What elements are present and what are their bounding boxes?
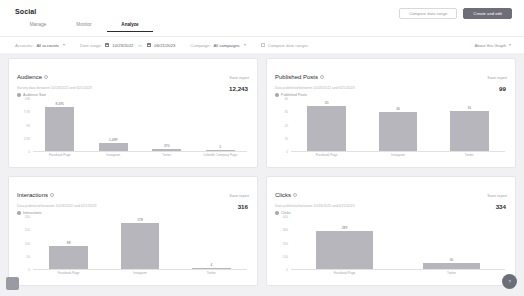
bar-value-label: 178 — [137, 218, 143, 222]
info-icon[interactable] — [44, 75, 48, 79]
bar-column[interactable]: 178 — [104, 217, 175, 269]
y-axis-tick: 0 — [286, 268, 288, 272]
bar[interactable] — [307, 106, 346, 152]
x-axis-label: Facebook Page — [291, 270, 398, 279]
compare-date-ranges-checkbox[interactable]: Compare date ranges — [261, 43, 309, 48]
about-this-graph-link[interactable]: About this Graph — [475, 43, 511, 48]
y-axis-tick: 30 — [285, 110, 288, 114]
bar-value-label: 289 — [342, 226, 348, 230]
bar-column[interactable]: 1 — [194, 99, 248, 151]
accounts-filter[interactable]: Accounts: All accounts — [15, 43, 65, 48]
chart-legend: Interactions — [17, 211, 249, 215]
panel-total-value: 99 — [499, 85, 506, 92]
x-axis-label: Facebook Page — [33, 152, 87, 161]
x-axis-label: Twitter — [434, 152, 505, 161]
bar-column[interactable]: 1,489 — [87, 99, 141, 151]
y-axis-tick: 0 — [28, 150, 30, 154]
bar-column[interactable]: 370 — [140, 99, 194, 151]
calendar-icon — [105, 43, 110, 48]
save-report-link[interactable]: Save report — [229, 76, 249, 80]
panel-title: Published Posts — [275, 74, 318, 80]
info-icon[interactable] — [320, 75, 324, 79]
info-icon[interactable] — [50, 193, 54, 197]
panel-title-wrap: Audience — [17, 65, 48, 83]
chart-legend: Published Posts — [275, 93, 507, 97]
y-axis-tick: 200 — [25, 215, 30, 219]
x-axis-labels: Facebook PageInstagramTwitter — [291, 152, 505, 161]
bar[interactable] — [121, 223, 160, 269]
accounts-filter-value: All accounts — [36, 43, 59, 48]
panel-header: Interactions Save report — [17, 183, 249, 201]
chevron-down-icon-about — [509, 44, 511, 46]
x-axis-label: LinkedIn Company Page — [194, 152, 248, 161]
y-axis: 0100200300400 — [275, 217, 290, 270]
x-axis-labels: Facebook PageInstagramTwitter — [33, 270, 247, 279]
campaign-filter-value: All campaigns — [214, 43, 240, 48]
y-axis-tick: 150 — [25, 228, 30, 232]
bar-series: 353031 — [291, 99, 505, 151]
x-axis-label: Instagram — [362, 152, 433, 161]
bar[interactable] — [450, 111, 489, 151]
save-report-link[interactable]: Save report — [229, 194, 249, 198]
y-axis-tick: 7.5K — [24, 110, 30, 114]
bar-column[interactable]: 31 — [434, 99, 505, 151]
bar-value-label: 370 — [164, 144, 170, 148]
chart-published-posts: 010203040 353031 Facebook PageInstagramT… — [275, 99, 507, 161]
help-icon: ? — [508, 279, 510, 284]
info-icon[interactable] — [293, 193, 297, 197]
bar[interactable] — [316, 231, 374, 269]
chevron-down-icon-campaign — [244, 44, 246, 46]
chart-legend: Clicks — [275, 211, 507, 215]
bar-column[interactable]: 88 — [33, 217, 104, 269]
panel-total-value: 334 — [496, 203, 506, 210]
bar[interactable] — [45, 107, 74, 151]
save-report-link[interactable]: Save report — [487, 76, 507, 80]
checkbox-icon[interactable] — [261, 43, 265, 47]
bar[interactable] — [152, 149, 181, 151]
bottom-left-badge[interactable] — [6, 277, 19, 290]
bar-column[interactable]: 35 — [291, 99, 362, 151]
date-to-value: 06/21/2023 — [154, 43, 175, 48]
x-axis-label: Instagram — [104, 270, 175, 279]
date-range-filter[interactable]: Date range: 10/23/2022 to 06/21/2023 — [80, 43, 175, 48]
y-axis: 050100150200 — [17, 217, 32, 270]
compare-date-range-button[interactable]: Compare date range — [399, 8, 457, 19]
bar-column[interactable]: 4 — [176, 217, 247, 269]
bar[interactable] — [99, 143, 128, 151]
bar[interactable] — [379, 112, 418, 151]
y-axis-tick: 0 — [286, 150, 288, 154]
panel-interactions: Interactions Save report Data published … — [8, 176, 258, 286]
panel-header: Clicks Save report — [275, 183, 507, 201]
bar-column[interactable]: 289 — [291, 217, 398, 269]
date-range-separator: to — [138, 43, 142, 48]
bar-value-label: 35 — [325, 101, 329, 105]
bar-column[interactable]: 8,495 — [33, 99, 87, 151]
campaign-filter-label: Campaign: — [190, 43, 210, 48]
x-axis-labels: Facebook PageInstagramTwitterLinkedIn Co… — [33, 152, 247, 161]
bar[interactable] — [49, 246, 88, 269]
bar-value-label: 1 — [219, 145, 221, 149]
panel-subtitle: Data published between 10/23/2022 and 6/… — [275, 86, 507, 90]
help-fab-button[interactable]: ? — [502, 274, 517, 289]
compare-date-ranges-label: Compare date ranges — [268, 43, 309, 48]
tab-manage[interactable]: Manage — [15, 22, 61, 32]
create-and-edit-button[interactable]: Create and edit — [463, 8, 512, 19]
plot-area: 881784 — [33, 217, 247, 270]
legend-swatch-icon — [275, 211, 279, 215]
bar-column[interactable]: 30 — [362, 99, 433, 151]
bar-column[interactable]: 45 — [398, 217, 505, 269]
campaign-filter[interactable]: Campaign: All campaigns — [190, 43, 245, 48]
save-report-link[interactable]: Save report — [487, 194, 507, 198]
bar[interactable] — [423, 263, 481, 269]
bar-value-label: 88 — [67, 241, 71, 245]
tab-analyze[interactable]: Analyze — [107, 22, 153, 32]
bar[interactable] — [206, 150, 235, 151]
bar[interactable] — [192, 268, 231, 269]
analytics-dashboard: Social Manage Monitor Analyze Compare da… — [0, 0, 524, 296]
panel-total-value: 12,243 — [229, 85, 248, 92]
plot-area: 353031 — [291, 99, 505, 152]
panel-title-wrap: Interactions — [17, 183, 54, 201]
y-axis-tick: 2.5K — [24, 137, 30, 141]
date-range-label: Date range: — [80, 43, 102, 48]
tab-monitor[interactable]: Monitor — [61, 22, 107, 32]
